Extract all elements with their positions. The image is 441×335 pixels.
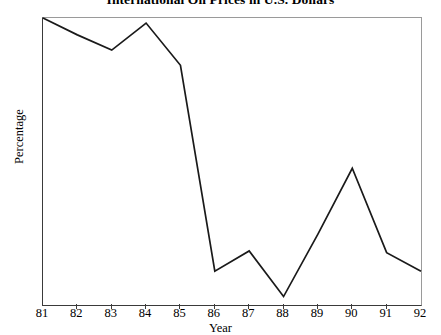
x-tick-mark	[76, 304, 77, 309]
y-axis-title: Percentage	[12, 67, 27, 207]
x-tick-mark	[179, 304, 180, 309]
x-tick-mark	[283, 304, 284, 309]
x-tick-mark	[111, 304, 112, 309]
series-polyline	[43, 18, 421, 297]
x-tick-mark	[145, 304, 146, 309]
chart-container: International Oil Prices in U.S. Dollars…	[0, 0, 441, 335]
plot-area	[42, 17, 422, 306]
chart-title: International Oil Prices in U.S. Dollars	[0, 0, 441, 7]
x-axis-title: Year	[0, 321, 441, 335]
x-tick-mark	[386, 304, 387, 309]
x-tick-label: 81	[27, 307, 57, 320]
x-tick-mark	[317, 304, 318, 309]
x-tick-mark	[214, 304, 215, 309]
x-tick-mark	[351, 304, 352, 309]
x-tick-label: 92	[405, 307, 435, 320]
data-series-line	[43, 18, 421, 305]
x-tick-mark	[248, 304, 249, 309]
